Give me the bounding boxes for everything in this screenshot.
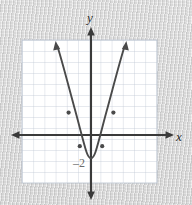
curve-point-marker <box>100 144 104 148</box>
vertex-value-label: –2 <box>72 156 85 170</box>
curve-point-marker <box>78 144 82 148</box>
coordinate-plane-graph: y x –2 <box>0 0 192 205</box>
figure-canvas: y x –2 <box>0 0 192 205</box>
y-axis-label: y <box>85 10 93 25</box>
graph-grid <box>22 40 157 183</box>
curve-point-marker <box>67 111 71 115</box>
x-axis-label: x <box>175 129 182 144</box>
curve-point-marker <box>111 111 115 115</box>
